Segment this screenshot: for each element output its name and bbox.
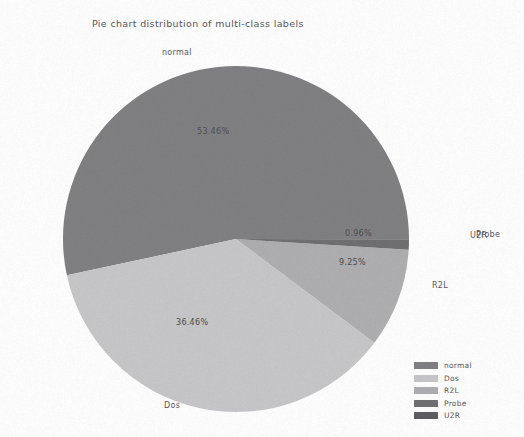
legend-item: normal <box>414 361 472 370</box>
legend-label-r2l: R2L <box>444 386 459 395</box>
outer-label-probe: Probe <box>476 230 500 239</box>
slice-percent-r2l: 9.25% <box>339 258 366 267</box>
legend-label-normal: normal <box>444 361 472 370</box>
legend-swatch-r2l <box>414 387 438 394</box>
page-title: Pie chart distribution of multi-class la… <box>92 18 304 29</box>
legend-swatch-u2r <box>414 412 438 419</box>
legend-label-u2r: U2R <box>444 411 460 420</box>
slice-percent-dos: 36.46% <box>176 318 208 327</box>
legend-item: U2R <box>414 411 472 420</box>
outer-label-normal: normal <box>162 48 192 57</box>
outer-label-r2l: R2L <box>432 281 448 290</box>
pie-slice-group <box>63 66 409 412</box>
legend-item: Dos <box>414 374 472 383</box>
pie-chart-figure: Pie chart distribution of multi-class la… <box>0 0 524 437</box>
chart-legend: normal Dos R2L Probe U2R <box>414 361 472 420</box>
outer-label-dos: Dos <box>164 401 180 410</box>
legend-swatch-normal <box>414 362 438 369</box>
legend-label-probe: Probe <box>444 399 467 408</box>
slice-percent-probe: 0.96% <box>345 229 372 238</box>
legend-item: Probe <box>414 399 472 408</box>
legend-label-dos: Dos <box>444 374 459 383</box>
pie-chart-canvas <box>62 64 410 414</box>
legend-item: R2L <box>414 386 472 395</box>
legend-swatch-probe <box>414 400 438 407</box>
legend-swatch-dos <box>414 375 438 382</box>
pie-svg <box>62 64 410 414</box>
slice-percent-normal: 53.46% <box>197 127 229 136</box>
